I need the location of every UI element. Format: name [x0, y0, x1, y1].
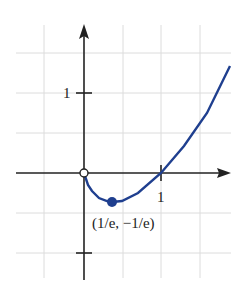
min-point-label: (1/e, −1/e): [92, 216, 155, 231]
plot: [0, 0, 242, 290]
open-point-origin: [80, 169, 88, 177]
grid: [16, 25, 231, 278]
y-tick-label-1: 1: [63, 86, 71, 101]
x-tick-label-1: 1: [157, 190, 165, 205]
min-point: [107, 197, 117, 207]
axes: [16, 35, 222, 280]
x-axis-arrow-icon: [217, 168, 231, 178]
curve-xlnx: [84, 66, 230, 202]
